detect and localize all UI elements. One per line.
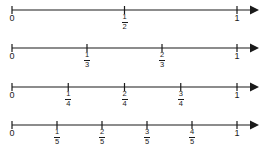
fraction: 15 [54,128,60,146]
axis-thirds [0,38,264,58]
fraction-denominator: 4 [65,100,71,108]
fraction-numerator: 1 [84,51,90,59]
tick-label-whole: 1 [234,14,239,23]
fraction: 45 [189,128,195,146]
tick-label-fraction: 35 [144,128,150,147]
tick-label-fraction: 13 [84,51,90,70]
tick-label-whole: 1 [234,91,239,100]
fraction: 24 [122,90,128,108]
fraction-denominator: 5 [189,138,195,146]
arrowhead-icon [250,6,259,15]
tick-label-fraction: 14 [65,90,71,109]
fraction: 23 [159,51,165,69]
tick-label-whole: 1 [234,52,239,61]
axis-fourths [0,77,264,97]
fraction-denominator: 4 [178,100,184,108]
tick-label-whole: 0 [9,91,14,100]
arrowhead-icon [250,44,259,53]
fraction-numerator: 2 [99,128,105,136]
fraction-denominator: 5 [99,138,105,146]
tick-label-fraction: 23 [159,51,165,70]
number-line-thirds: 013231 [0,38,264,76]
fraction: 14 [65,90,71,108]
tick-label-whole: 0 [9,129,14,138]
fraction-numerator: 2 [122,90,128,98]
fraction-denominator: 3 [159,61,165,69]
tick-label-whole: 0 [9,14,14,23]
fraction-numerator: 1 [54,128,60,136]
fraction-numerator: 1 [122,13,128,21]
arrowhead-icon [250,83,259,92]
fraction: 25 [99,128,105,146]
fraction-number-lines-figure: 0121013231014243410152535451 [0,0,264,155]
arrowhead-icon [250,121,259,130]
fraction-denominator: 4 [122,100,128,108]
tick-label-whole: 0 [9,52,14,61]
fraction-numerator: 1 [65,90,71,98]
number-line-fourths: 01424341 [0,77,264,115]
fraction-numerator: 3 [144,128,150,136]
fraction: 35 [144,128,150,146]
fraction-numerator: 4 [189,128,195,136]
fraction: 12 [122,13,128,31]
fraction-denominator: 5 [144,138,150,146]
number-line-fifths: 0152535451 [0,115,264,153]
fraction-denominator: 5 [54,138,60,146]
tick-label-fraction: 45 [189,128,195,147]
fraction-denominator: 3 [84,61,90,69]
tick-label-whole: 1 [234,129,239,138]
axis-fifths [0,115,264,135]
fraction: 13 [84,51,90,69]
tick-label-fraction: 25 [99,128,105,147]
tick-label-fraction: 34 [178,90,184,109]
fraction: 34 [178,90,184,108]
fraction-denominator: 2 [122,23,128,31]
number-line-halves: 0121 [0,0,264,38]
fraction-numerator: 3 [178,90,184,98]
axis-halves [0,0,264,20]
tick-label-fraction: 15 [54,128,60,147]
tick-label-fraction: 24 [122,90,128,109]
tick-label-fraction: 12 [122,13,128,32]
fraction-numerator: 2 [159,51,165,59]
